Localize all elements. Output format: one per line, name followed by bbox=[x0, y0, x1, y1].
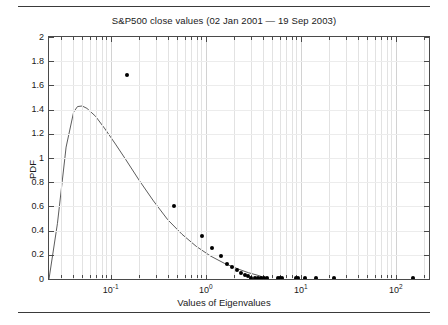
x-tick-mark bbox=[156, 275, 157, 278]
data-point-marker bbox=[332, 276, 336, 279]
y-tick-mark bbox=[424, 158, 429, 159]
x-tick-mark bbox=[375, 37, 376, 40]
y-gridline bbox=[49, 158, 429, 159]
data-point-marker bbox=[296, 276, 300, 279]
x-tick-mark bbox=[387, 37, 388, 40]
x-tick-mark bbox=[396, 37, 397, 42]
y-tick-label: 1.2 bbox=[4, 129, 44, 138]
y-tick-mark bbox=[49, 85, 54, 86]
bottom-divider-rule bbox=[18, 312, 430, 313]
figure-canvas: S&P500 close values (02 Jan 2001 — 19 Se… bbox=[0, 0, 448, 325]
x-tick-mark bbox=[82, 37, 83, 40]
y-gridline bbox=[49, 85, 429, 86]
y-tick-mark bbox=[424, 231, 429, 232]
data-point-marker bbox=[225, 262, 229, 266]
y-gridline bbox=[49, 231, 429, 232]
x-axis-label: Values of Eigenvalues bbox=[0, 297, 448, 308]
x-tick-mark bbox=[263, 37, 264, 40]
x-tick-mark bbox=[396, 275, 397, 279]
x-tick-mark bbox=[139, 37, 140, 40]
data-point-marker bbox=[200, 234, 204, 238]
y-tick-mark bbox=[424, 134, 429, 135]
y-tick-mark bbox=[49, 134, 54, 135]
x-tick-mark bbox=[280, 37, 281, 40]
x-tick-label: 100 bbox=[199, 285, 213, 295]
x-tick-mark bbox=[73, 275, 74, 278]
x-tick-mark bbox=[424, 275, 425, 278]
x-tick-mark bbox=[61, 275, 62, 278]
x-tick-mark bbox=[292, 37, 293, 40]
x-tick-mark bbox=[272, 37, 273, 40]
x-tick-mark bbox=[391, 275, 392, 278]
x-tick-mark bbox=[185, 37, 186, 40]
x-tick-mark bbox=[358, 37, 359, 40]
x-tick-mark bbox=[358, 275, 359, 278]
x-tick-label: 10-1 bbox=[103, 285, 119, 295]
x-tick-mark bbox=[82, 275, 83, 278]
x-tick-mark bbox=[381, 275, 382, 278]
y-gridline bbox=[49, 61, 429, 62]
x-tick-mark bbox=[375, 275, 376, 278]
y-gridline bbox=[49, 206, 429, 207]
x-tick-mark bbox=[391, 37, 392, 40]
y-tick-label: 2 bbox=[4, 33, 44, 42]
y-tick-mark bbox=[424, 182, 429, 183]
x-tick-mark bbox=[106, 37, 107, 40]
x-tick-mark bbox=[156, 37, 157, 40]
y-tick-mark bbox=[49, 37, 54, 38]
y-tick-label: 1.4 bbox=[4, 105, 44, 114]
x-tick-mark bbox=[272, 275, 273, 278]
x-tick-mark bbox=[191, 37, 192, 40]
chart-title: S&P500 close values (02 Jan 2001 — 19 Se… bbox=[0, 15, 448, 26]
x-tick-mark bbox=[367, 37, 368, 40]
y-gridline bbox=[49, 134, 429, 135]
x-tick-mark bbox=[197, 275, 198, 278]
x-tick-mark bbox=[234, 37, 235, 40]
x-tick-mark bbox=[387, 275, 388, 278]
x-tick-mark bbox=[201, 275, 202, 278]
x-tick-mark bbox=[329, 37, 330, 40]
y-gridline bbox=[49, 255, 429, 256]
x-tick-label: 102 bbox=[389, 285, 403, 295]
x-tick-label: 101 bbox=[294, 285, 308, 295]
data-point-marker bbox=[125, 73, 129, 77]
x-tick-mark bbox=[139, 275, 140, 278]
x-tick-mark bbox=[102, 37, 103, 40]
y-tick-mark bbox=[49, 206, 54, 207]
x-tick-mark bbox=[177, 37, 178, 40]
y-tick-mark bbox=[424, 255, 429, 256]
data-point-marker bbox=[230, 265, 234, 269]
x-tick-mark bbox=[301, 275, 302, 279]
x-tick-mark bbox=[111, 275, 112, 279]
x-tick-mark bbox=[367, 275, 368, 278]
x-tick-mark bbox=[286, 37, 287, 40]
x-tick-mark bbox=[301, 37, 302, 42]
y-tick-label: 0.8 bbox=[4, 178, 44, 187]
x-tick-mark bbox=[185, 275, 186, 278]
data-point-marker bbox=[280, 276, 284, 279]
x-tick-mark bbox=[111, 37, 112, 42]
x-tick-mark bbox=[329, 275, 330, 278]
x-tick-mark bbox=[90, 275, 91, 278]
x-tick-mark bbox=[177, 275, 178, 278]
y-tick-mark bbox=[49, 182, 54, 183]
plot-inner bbox=[49, 37, 429, 279]
data-point-marker bbox=[219, 254, 223, 258]
y-tick-mark bbox=[49, 61, 54, 62]
x-tick-mark bbox=[61, 37, 62, 40]
x-tick-mark bbox=[346, 37, 347, 40]
y-tick-label: 0.6 bbox=[4, 202, 44, 211]
x-tick-mark bbox=[90, 37, 91, 40]
x-tick-mark bbox=[106, 275, 107, 278]
x-tick-mark bbox=[346, 275, 347, 278]
y-tick-label: 1 bbox=[4, 154, 44, 163]
y-tick-mark bbox=[424, 206, 429, 207]
x-tick-mark bbox=[286, 275, 287, 278]
x-tick-mark bbox=[168, 37, 169, 40]
y-tick-mark bbox=[424, 85, 429, 86]
data-point-marker bbox=[303, 276, 307, 279]
x-tick-mark bbox=[73, 37, 74, 40]
plot-area: PDF 00.20.40.60.811.21.41.61.8210-110010… bbox=[48, 36, 430, 280]
x-tick-mark bbox=[191, 275, 192, 278]
y-tick-label: 1.6 bbox=[4, 81, 44, 90]
